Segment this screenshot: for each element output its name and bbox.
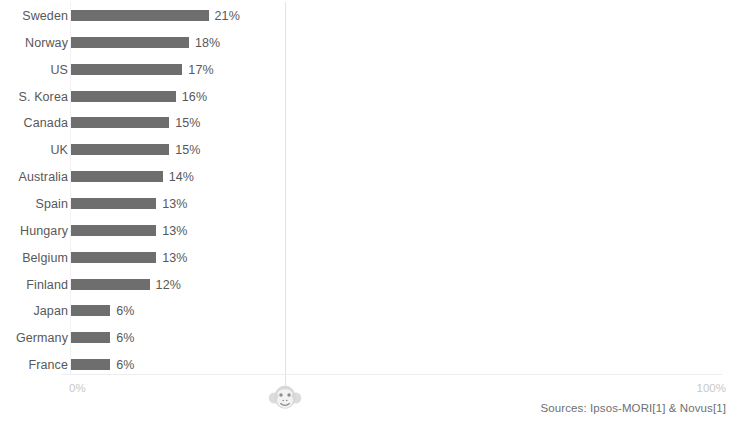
bar-category-label: UK [0, 143, 68, 158]
bar-row: S. Korea16% [0, 90, 734, 117]
x-axis-tick-min: 0% [69, 381, 86, 395]
bar-row: Norway18% [0, 36, 734, 63]
bar [71, 171, 163, 182]
bar-row: Japan6% [0, 304, 734, 331]
bar [71, 198, 156, 209]
bar [71, 305, 110, 316]
bar-value-label: 16% [182, 90, 207, 105]
bar-category-label: Germany [0, 331, 68, 346]
bar [71, 91, 176, 102]
bar-row: Finland12% [0, 278, 734, 305]
bar [71, 37, 189, 48]
bar [71, 279, 150, 290]
bar-row: Belgium13% [0, 251, 734, 278]
bar-value-label: 6% [116, 331, 134, 346]
bar-row: Canada15% [0, 116, 734, 143]
source-attribution: Sources: Ipsos-MORI[1] & Novus[1] [541, 401, 726, 415]
bar-value-label: 21% [215, 9, 240, 24]
bar-category-label: Canada [0, 116, 68, 131]
bar-category-label: Sweden [0, 9, 68, 24]
bar [71, 225, 156, 236]
bar [71, 359, 110, 370]
bar-chart: Sweden21%Norway18%US17%S. Korea16%Canada… [0, 0, 734, 422]
bar-value-label: 17% [188, 63, 213, 78]
bar-value-label: 13% [162, 197, 187, 212]
bar-row: Germany6% [0, 331, 734, 358]
bar [71, 252, 156, 263]
bar-value-label: 15% [175, 116, 200, 131]
bar-category-label: Norway [0, 36, 68, 51]
bar-value-label: 6% [116, 358, 134, 373]
bar-row: France6% [0, 358, 734, 385]
bar-category-label: Spain [0, 197, 68, 212]
x-axis-tick-max: 100% [697, 381, 726, 395]
bar [71, 10, 209, 21]
bar-category-label: Belgium [0, 251, 68, 266]
bar-row: Sweden21% [0, 9, 734, 36]
bar-row: UK15% [0, 143, 734, 170]
bar-category-label: S. Korea [0, 90, 68, 105]
bar [71, 332, 110, 343]
bar-category-label: France [0, 358, 68, 373]
bar-value-label: 15% [175, 143, 200, 158]
bar-value-label: 12% [156, 278, 181, 293]
bar-value-label: 13% [162, 224, 187, 239]
bar-category-label: Finland [0, 278, 68, 293]
bar-row: US17% [0, 63, 734, 90]
plot-area: Sweden21%Norway18%US17%S. Korea16%Canada… [0, 0, 734, 380]
monkey-face-icon [268, 383, 302, 413]
bar-row: Spain13% [0, 197, 734, 224]
bar-row: Australia14% [0, 170, 734, 197]
bar-category-label: Australia [0, 170, 68, 185]
bar-category-label: Japan [0, 304, 68, 319]
bar-value-label: 18% [195, 36, 220, 51]
bar-value-label: 13% [162, 251, 187, 266]
bar-category-label: Hungary [0, 224, 68, 239]
bar-value-label: 14% [169, 170, 194, 185]
bar [71, 144, 169, 155]
bar-row: Hungary13% [0, 224, 734, 251]
bar [71, 117, 169, 128]
bar-category-label: US [0, 63, 68, 78]
bar [71, 64, 182, 75]
bar-value-label: 6% [116, 304, 134, 319]
